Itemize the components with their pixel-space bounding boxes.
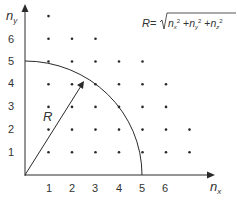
y-tick: 4 — [8, 77, 14, 89]
x-axis-label: nx — [210, 179, 222, 196]
lattice-point — [141, 151, 144, 154]
lattice-point — [165, 106, 168, 109]
radius-arrowhead-icon — [77, 81, 84, 89]
lattice-point — [94, 128, 97, 131]
lattice-point — [94, 38, 97, 41]
lattice-point — [71, 151, 74, 154]
lattice-point — [47, 106, 50, 109]
lattice-point — [71, 38, 74, 41]
lattice-point — [165, 83, 168, 86]
x-tick: 3 — [92, 182, 98, 194]
y-tick: 5 — [8, 55, 14, 67]
lattice-point — [94, 106, 97, 109]
lattice-point — [47, 83, 50, 86]
y-axis-label: ny — [6, 8, 18, 25]
x-tick-labels: 1 2 3 4 5 6 — [46, 182, 168, 194]
lattice-point — [94, 151, 97, 154]
y-tick: 1 — [8, 146, 14, 158]
lattice-points — [47, 15, 191, 154]
lattice-point — [94, 83, 97, 86]
lattice-point — [118, 106, 121, 109]
lattice-point — [118, 60, 121, 63]
y-tick: 6 — [8, 33, 14, 45]
lattice-point — [118, 128, 121, 131]
x-tick: 6 — [162, 182, 168, 194]
lattice-point — [118, 151, 121, 154]
lattice-point — [94, 60, 97, 63]
lattice-point — [141, 128, 144, 131]
lattice-point — [71, 106, 74, 109]
lattice-point — [165, 151, 168, 154]
lattice-point — [47, 15, 50, 18]
y-tick: 3 — [8, 100, 14, 112]
formula: R= nx2 +ny2 +nz2 — [142, 13, 236, 30]
x-tick: 5 — [139, 182, 145, 194]
lattice-point — [188, 128, 191, 131]
radius-label: R — [43, 109, 52, 124]
x-tick: 2 — [69, 182, 75, 194]
lattice-point — [71, 83, 74, 86]
y-tick-labels: 1 2 3 4 5 6 — [8, 33, 14, 158]
lattice-point — [71, 60, 74, 63]
lattice-point — [47, 151, 50, 154]
lattice-point — [71, 128, 74, 131]
lattice-point — [47, 60, 50, 63]
y-axis-arrowhead-icon — [22, 4, 29, 12]
x-tick: 1 — [46, 182, 52, 194]
lattice-point — [141, 106, 144, 109]
lattice-point — [188, 151, 191, 154]
formula-radicand: nx2 +ny2 +nz2 — [168, 17, 223, 30]
y-tick: 2 — [8, 123, 14, 135]
lattice-point — [118, 83, 121, 86]
lattice-point — [141, 60, 144, 63]
lattice-point — [47, 128, 50, 131]
lattice-point — [47, 38, 50, 41]
lattice-point — [141, 83, 144, 86]
lattice-point — [165, 128, 168, 131]
x-axis-arrowhead-icon — [207, 172, 215, 179]
lattice-diagram: R ny nx 1 2 3 4 5 6 1 2 3 4 5 6 R= nx2 +… — [0, 0, 237, 202]
x-tick: 4 — [116, 182, 122, 194]
formula-lhs: R= — [142, 17, 156, 29]
